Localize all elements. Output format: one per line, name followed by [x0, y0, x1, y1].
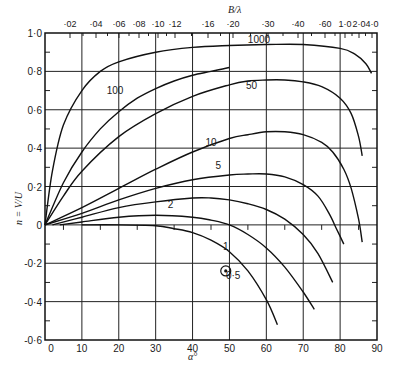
top-tick-label: ·02 [63, 19, 76, 29]
top-tick-label: ·10 [151, 19, 164, 29]
curve-label-5: 5 [216, 160, 222, 171]
curve-label-10: 10 [205, 137, 217, 148]
top-tick-label: ·30 [261, 19, 274, 29]
top-tick-label: 4·0 [365, 19, 378, 29]
top-tick-label: ·12 [168, 19, 181, 29]
curve-0·5 [82, 225, 278, 325]
curve-labels: 100010050105210·5 [107, 34, 271, 281]
curve-label-1000: 1000 [248, 34, 271, 45]
curve-label-1: 1 [223, 241, 229, 252]
y-tick-label: -0·2 [24, 258, 42, 269]
curves [45, 44, 372, 324]
top-tick-label: ·20 [226, 19, 239, 29]
x-axis-title: α° [188, 351, 197, 362]
y-tick-label: 0·2 [28, 182, 43, 193]
top-tick-label: 1·0 [338, 19, 351, 29]
circled-dot-marker-dot [224, 269, 227, 272]
curve-100 [45, 68, 229, 225]
x-tick-label: 30 [150, 343, 162, 354]
top-tick-label: ·60 [318, 19, 331, 29]
top-tick-label: ·40 [291, 19, 304, 29]
top-tick-label: ·04 [89, 19, 102, 29]
x-axis-tick-labels: 0102030405060708090 [48, 343, 383, 354]
y-tick-label: -0·4 [24, 297, 42, 308]
top-tick-label: ·08 [132, 19, 145, 29]
y-axis-tick-labels: 1·00·80·60·40·20-0·2-0·4-0·6 [24, 28, 42, 346]
y-axis-title: n = V/U [13, 191, 24, 225]
curve-label-50: 50 [246, 80, 258, 91]
top-axis-tick-labels: ·02·04·06·08·10·12·16·20·30·40·601·02·04… [63, 19, 378, 29]
curve-label-100: 100 [107, 85, 124, 96]
x-tick-label: 10 [76, 343, 88, 354]
y-tick-label: 0·4 [28, 143, 43, 154]
y-tick-label: -0·6 [24, 335, 42, 346]
top-axis-title: B/λ [228, 4, 242, 15]
top-tick-label: ·16 [201, 19, 214, 29]
grid-lines [45, 33, 377, 340]
x-tick-label: 90 [371, 343, 383, 354]
x-tick-label: 80 [335, 343, 347, 354]
curve-50 [45, 80, 362, 225]
curve-1 [60, 215, 314, 309]
x-tick-label: 0 [48, 343, 54, 354]
top-tick-label: ·06 [112, 19, 125, 29]
x-tick-label: 60 [261, 343, 273, 354]
y-tick-label: 0·8 [28, 66, 43, 77]
x-tick-label: 20 [113, 343, 125, 354]
x-tick-label: 50 [224, 343, 236, 354]
y-tick-label: 0·6 [28, 105, 43, 116]
y-tick-label: 0 [36, 220, 42, 231]
top-tick-label: 2·0 [352, 19, 365, 29]
y-tick-label: 1·0 [28, 28, 43, 39]
chart: 1·00·80·60·40·20-0·2-0·4-0·6 01020304050… [0, 0, 395, 372]
curve-label-2: 2 [168, 199, 174, 210]
x-tick-label: 70 [298, 343, 310, 354]
